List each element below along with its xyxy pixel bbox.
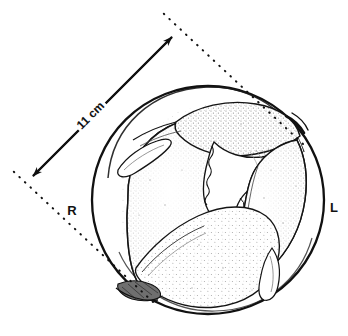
- specimen-group: [116, 102, 308, 307]
- anatomical-cross-section-figure: 11 cm R L: [0, 0, 348, 336]
- left-orientation-label: L: [330, 200, 338, 215]
- right-orientation-label: R: [67, 203, 77, 218]
- figure-container: 11 cm R L: [0, 0, 348, 336]
